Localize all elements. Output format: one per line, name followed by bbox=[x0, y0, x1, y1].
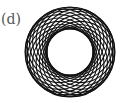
rosette-figure bbox=[0, 0, 127, 103]
